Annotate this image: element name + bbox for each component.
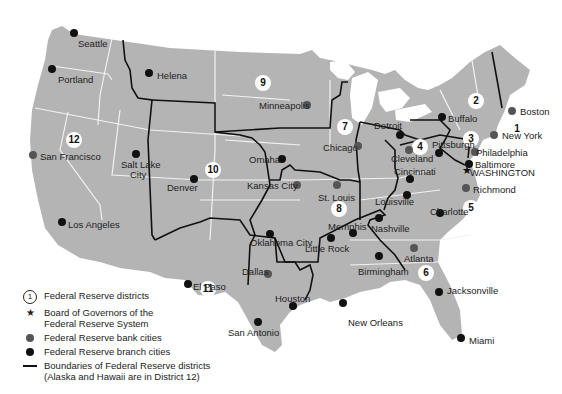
city-dot-san-antonio bbox=[254, 318, 262, 326]
legend-label-boundaries: Boundaries of Federal Reserve districts bbox=[44, 360, 210, 371]
city-label-san-francisco: San Francisco bbox=[40, 152, 101, 162]
legend-label-boundaries-note: (Alaska and Hawaii are in District 12) bbox=[44, 371, 210, 382]
legend-row-districts: 1 Federal Reserve districts bbox=[22, 290, 210, 304]
city-label-washington: WASHINGTON bbox=[470, 168, 535, 178]
city-label-minneapolis: Minneapolis bbox=[259, 101, 310, 111]
city-dot-new-orleans bbox=[339, 299, 347, 307]
city-dot-richmond bbox=[462, 184, 470, 192]
city-label-little-rock: Little Rock bbox=[305, 244, 349, 254]
city-label-buffalo: Buffalo bbox=[448, 114, 477, 124]
city-label-miami: Miami bbox=[469, 336, 494, 346]
city-label-atlanta: Atlanta bbox=[404, 254, 434, 264]
district-badge-12: 12 bbox=[66, 132, 82, 148]
city-label-nashville: Nashville bbox=[371, 224, 410, 234]
district-badge-8: 8 bbox=[331, 201, 347, 217]
city-label-jacksonville: Jacksonville bbox=[447, 286, 498, 296]
city-label-new-york: New York bbox=[502, 131, 542, 141]
city-dot-pittsburgh bbox=[435, 149, 443, 157]
city-dot-el-paso bbox=[184, 280, 192, 288]
legend-label-board: Board of Governors of the Federal Reserv… bbox=[44, 307, 184, 329]
city-label-portland: Portland bbox=[58, 75, 93, 85]
boundary-line-icon bbox=[23, 365, 37, 367]
city-dot-nashville bbox=[375, 214, 383, 222]
city-dot-los-angeles bbox=[58, 218, 66, 226]
city-label-richmond: Richmond bbox=[473, 185, 516, 195]
city-label-louisville: Louisville bbox=[375, 197, 414, 207]
city-label-san-antonio: San Antonio bbox=[228, 328, 279, 338]
city-dot-buffalo bbox=[438, 113, 446, 121]
city-label-seattle: Seattle bbox=[78, 39, 108, 49]
legend-row-branch: Federal Reserve branch cities bbox=[22, 346, 210, 357]
district-badge-10: 10 bbox=[205, 162, 221, 178]
legend-row-board: ★ Board of Governors of the Federal Rese… bbox=[22, 307, 210, 329]
city-dot-birmingham bbox=[375, 252, 383, 260]
legend-label-districts: Federal Reserve districts bbox=[44, 290, 149, 301]
city-label-denver: Denver bbox=[167, 183, 198, 193]
city-dot-jacksonville bbox=[435, 288, 443, 296]
city-label-kansas-city: Kansas City bbox=[247, 181, 298, 191]
district-badge-9: 9 bbox=[255, 75, 271, 91]
city-label-omaha: Omaha bbox=[249, 155, 280, 165]
city-dot-st-louis bbox=[333, 181, 341, 189]
bank-dot-icon bbox=[26, 334, 34, 342]
city-label-salt-lake-city-2: City bbox=[130, 170, 146, 180]
star-icon: ★ bbox=[22, 307, 38, 318]
city-dot-portland bbox=[48, 65, 56, 73]
district-circle-icon: 1 bbox=[23, 290, 37, 304]
city-label-helena: Helena bbox=[157, 71, 187, 81]
city-label-cincinnati: Cincinnati bbox=[394, 167, 436, 177]
city-label-new-orleans: New Orleans bbox=[348, 318, 403, 328]
legend-row-boundaries: Boundaries of Federal Reserve districts … bbox=[22, 360, 210, 382]
city-dot-miami bbox=[457, 334, 465, 342]
district-badge-2: 2 bbox=[468, 93, 484, 109]
city-label-philadelphia: Philadelphia bbox=[476, 148, 528, 158]
city-label-los-angeles: Los Angeles bbox=[68, 220, 120, 230]
map-legend: 1 Federal Reserve districts ★ Board of G… bbox=[22, 290, 210, 385]
city-label-pittsburgh: Pittsburgh bbox=[432, 140, 475, 150]
city-label-cleveland: Cleveland bbox=[391, 154, 433, 164]
city-label-oklahoma-city: Oklahoma City bbox=[250, 238, 312, 248]
city-dot-detroit bbox=[396, 131, 404, 139]
city-label-birmingham: Birmingham bbox=[358, 267, 409, 277]
district-badge-7: 7 bbox=[337, 119, 353, 135]
city-dot-san-francisco bbox=[29, 151, 37, 159]
legend-label-branch: Federal Reserve branch cities bbox=[44, 346, 170, 357]
branch-dot-icon bbox=[26, 348, 34, 356]
city-label-dallas: Dallas bbox=[242, 267, 268, 277]
city-label-charlotte: Charlotte bbox=[430, 207, 469, 217]
district-badge-6: 6 bbox=[418, 265, 434, 281]
city-dot-helena bbox=[145, 69, 153, 77]
city-label-memphis: Memphis bbox=[328, 222, 367, 232]
legend-row-bank: Federal Reserve bank cities bbox=[22, 332, 210, 343]
city-dot-boston bbox=[508, 107, 516, 115]
city-dot-little-rock bbox=[327, 234, 335, 242]
city-label-boston: Boston bbox=[520, 107, 550, 117]
city-dot-atlanta bbox=[410, 244, 418, 252]
city-label-st-louis: St. Louis bbox=[318, 193, 355, 203]
city-label-chicago: Chicago bbox=[323, 143, 358, 153]
legend-label-bank: Federal Reserve bank cities bbox=[44, 332, 162, 343]
city-label-houston: Houston bbox=[275, 294, 310, 304]
city-dot-salt-lake-city bbox=[132, 150, 140, 158]
city-dot-seattle bbox=[70, 29, 78, 37]
city-label-detroit: Detroit bbox=[374, 121, 402, 131]
city-dot-new-york bbox=[490, 131, 498, 139]
